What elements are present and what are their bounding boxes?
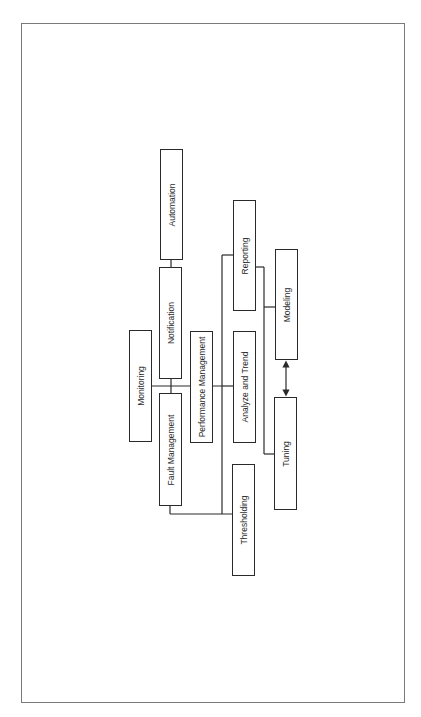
node-label: Notification (166, 302, 176, 344)
node-label: Automation (167, 183, 177, 226)
node-label: Modeling (282, 287, 292, 322)
node-label: Analyze and Trend (240, 352, 250, 423)
node-label: Thresholding (239, 495, 249, 544)
node-performance-management: Performance Management (190, 331, 213, 443)
node-label: Fault Management (166, 414, 176, 485)
node-monitoring: Monitoring (129, 330, 152, 442)
node-reporting: Reporting (233, 200, 256, 311)
node-analyze-and-trend: Analyze and Trend (233, 331, 256, 443)
node-modeling: Modeling (275, 249, 298, 360)
node-label: Monitoring (136, 366, 146, 406)
node-thresholding: Thresholding (232, 464, 255, 576)
node-label: Reporting (240, 237, 250, 274)
node-label: Performance Management (197, 337, 207, 438)
node-fault-management: Fault Management (159, 393, 182, 506)
node-label: Tuning (281, 441, 291, 467)
node-tuning: Tuning (274, 397, 297, 510)
node-notification: Notification (159, 267, 182, 379)
node-automation: Automation (160, 149, 183, 260)
